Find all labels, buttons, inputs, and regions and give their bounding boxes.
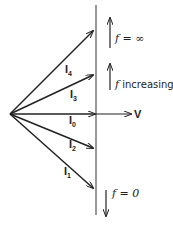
- label-v: V: [134, 108, 142, 120]
- phasor-i2: [10, 114, 93, 148]
- label-i3: I3: [70, 88, 77, 102]
- label-i4: I4: [65, 63, 72, 77]
- phasor-i4: [10, 31, 93, 114]
- label-i0: I0: [69, 114, 76, 128]
- label-f-increasing: f increasing: [114, 78, 173, 91]
- label-f-zero: f = 0: [111, 187, 139, 200]
- phasor-i3: [10, 75, 93, 114]
- phasor-i1: [10, 114, 93, 188]
- phasor-diagram: I4 I3 I0 I2 I1 V f = ∞ f increasing f = …: [0, 0, 173, 228]
- label-f-infinity: f = ∞: [114, 32, 144, 45]
